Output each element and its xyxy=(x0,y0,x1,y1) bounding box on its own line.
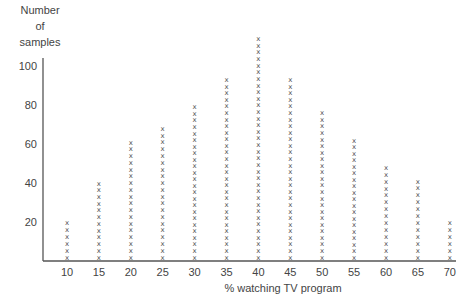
y-axis-label-line: of xyxy=(35,20,45,32)
data-markers: xxxxxxxxxxxxxxxxxxxxxxxxxxxxxxxxxxxxxxxx… xyxy=(65,35,452,261)
data-marker: x xyxy=(65,219,69,227)
data-marker: x xyxy=(384,247,388,255)
data-marker: x xyxy=(384,205,388,213)
y-tick-label: 60 xyxy=(25,138,37,150)
data-marker: x xyxy=(416,191,420,199)
data-marker: x xyxy=(416,212,420,220)
marker-column-10: xxxxxx xyxy=(65,219,69,262)
x-tick-label: 70 xyxy=(444,266,456,278)
y-axis-label: Number of samples xyxy=(20,4,61,48)
data-marker: x xyxy=(416,198,420,206)
data-marker: x xyxy=(384,171,388,179)
data-marker: x xyxy=(65,254,69,262)
y-tick-label: 100 xyxy=(19,60,37,72)
data-marker: x xyxy=(129,139,133,147)
data-marker: x xyxy=(416,240,420,248)
data-marker: x xyxy=(448,254,452,262)
x-tick-label: 15 xyxy=(93,266,105,278)
x-tick-label: 10 xyxy=(61,266,73,278)
dot-plot-chart: Number of samples 20406080100 1015202530… xyxy=(0,0,476,308)
data-marker: x xyxy=(384,212,388,220)
y-axis-label-line: Number xyxy=(20,4,59,16)
data-marker: x xyxy=(384,240,388,248)
x-tick-label: 40 xyxy=(252,266,264,278)
marker-column-45: xxxxxxxxxxxxxxxxxxxxxxxxxxxx xyxy=(288,76,292,261)
data-marker: x xyxy=(416,178,420,186)
data-marker: x xyxy=(384,164,388,172)
data-marker: x xyxy=(384,178,388,186)
data-marker: x xyxy=(384,219,388,227)
marker-column-30: xxxxxxxxxxxxxxxxxxxxxxxx xyxy=(193,103,197,261)
data-marker: x xyxy=(320,109,324,117)
data-marker: x xyxy=(224,76,228,84)
marker-column-70: xxxxxx xyxy=(448,219,452,262)
marker-column-60: xxxxxxxxxxxxxx xyxy=(384,164,388,262)
x-axis-label: % watching TV program xyxy=(224,282,341,294)
data-marker: x xyxy=(384,254,388,262)
marker-column-65: xxxxxxxxxxxx xyxy=(416,178,420,262)
data-marker: x xyxy=(65,240,69,248)
data-marker: x xyxy=(97,180,101,188)
y-tick-label: 40 xyxy=(25,177,37,189)
data-marker: x xyxy=(384,185,388,193)
marker-column-40: xxxxxxxxxxxxxxxxxxxxxxxxxxxxxxxxxx xyxy=(256,35,260,261)
data-marker: x xyxy=(416,233,420,241)
y-tick-labels: 20406080100 xyxy=(19,60,37,228)
data-marker: x xyxy=(416,219,420,227)
data-marker: x xyxy=(384,233,388,241)
data-marker: x xyxy=(416,205,420,213)
data-marker: x xyxy=(416,247,420,255)
data-marker: x xyxy=(161,125,165,133)
data-marker: x xyxy=(416,226,420,234)
marker-column-35: xxxxxxxxxxxxxxxxxxxxxxxxxxxx xyxy=(224,76,228,261)
marker-column-15: xxxxxxxxxxxx xyxy=(97,180,101,262)
x-tick-label: 50 xyxy=(316,266,328,278)
marker-column-50: xxxxxxxxxxxxxxxxxxxxxxx xyxy=(320,109,324,261)
y-tick-label: 20 xyxy=(25,216,37,228)
data-marker: x xyxy=(384,198,388,206)
data-marker: x xyxy=(65,233,69,241)
data-marker: x xyxy=(416,184,420,192)
x-tick-label: 20 xyxy=(125,266,137,278)
x-tick-labels: 10152025303540455055606570 xyxy=(61,266,456,278)
data-marker: x xyxy=(448,226,452,234)
x-tick-label: 45 xyxy=(284,266,296,278)
data-marker: x xyxy=(193,103,197,111)
data-marker: x xyxy=(448,247,452,255)
data-marker: x xyxy=(65,247,69,255)
data-marker: x xyxy=(65,226,69,234)
data-marker: x xyxy=(288,76,292,84)
y-tick-label: 80 xyxy=(25,99,37,111)
data-marker: x xyxy=(416,254,420,262)
data-marker: x xyxy=(448,240,452,248)
x-tick-label: 35 xyxy=(220,266,232,278)
x-tick-label: 55 xyxy=(348,266,360,278)
data-marker: x xyxy=(352,137,356,145)
marker-column-25: xxxxxxxxxxxxxxxxxxxx xyxy=(161,125,165,262)
marker-column-20: xxxxxxxxxxxxxxxxxx xyxy=(129,139,133,262)
y-axis-label-line: samples xyxy=(20,36,61,48)
x-tick-label: 60 xyxy=(380,266,392,278)
marker-column-55: xxxxxxxxxxxxxxxxxxx xyxy=(352,137,356,262)
x-tick-label: 30 xyxy=(188,266,200,278)
data-marker: x xyxy=(256,35,260,43)
x-tick-label: 65 xyxy=(412,266,424,278)
data-marker: x xyxy=(448,233,452,241)
data-marker: x xyxy=(448,219,452,227)
x-tick-label: 25 xyxy=(157,266,169,278)
data-marker: x xyxy=(384,226,388,234)
data-marker: x xyxy=(384,191,388,199)
